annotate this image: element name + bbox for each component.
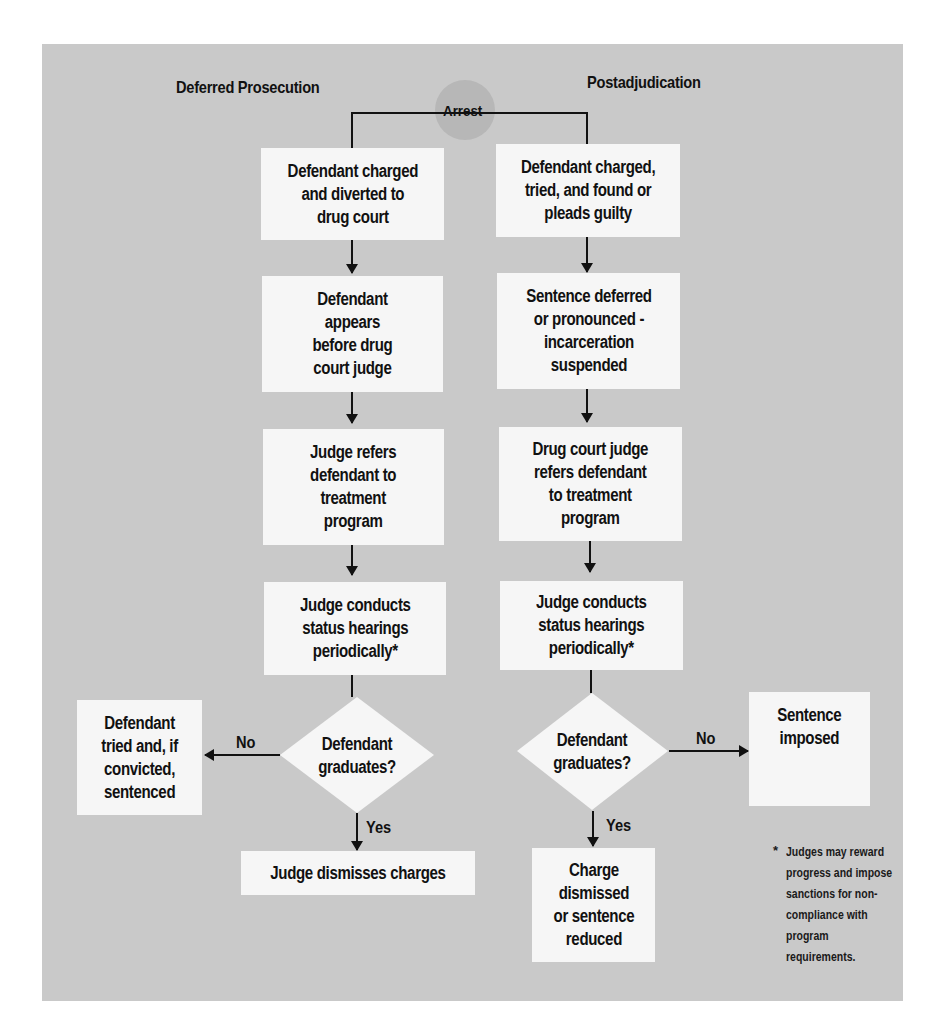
left-no-label: No [236, 733, 255, 753]
footnote-marker: * [773, 843, 778, 858]
left-step-4-box: Judge conducts status hearings periodica… [264, 582, 446, 675]
right-step-4-box: Judge conducts status hearings periodica… [500, 581, 683, 670]
right-yes-label: Yes [606, 816, 631, 836]
left-yes-label: Yes [366, 818, 391, 838]
right-yes-outcome-box: Charge dismissed or sentence reduced [532, 848, 655, 962]
left-step-2-text: Defendant appears before drug court judg… [313, 288, 393, 380]
right-yes-outcome-text: Charge dismissed or sentence reduced [553, 859, 634, 951]
right-no-outcome-box: Sentence imposed [749, 692, 870, 806]
right-step-2-box: Sentence deferred or pronounced - incarc… [497, 273, 680, 389]
right-step-4-text: Judge conducts status hearings periodica… [536, 591, 647, 660]
left-step-2-box: Defendant appears before drug court judg… [262, 276, 443, 392]
left-yes-outcome-text: Judge dismisses charges [270, 862, 445, 885]
left-step-4-text: Judge conducts status hearings periodica… [300, 594, 411, 663]
left-step-1-text: Defendant charged and diverted to drug c… [287, 160, 417, 229]
arrest-label: Arrest [443, 102, 482, 120]
left-decision-text: Defendant graduates? [305, 733, 408, 779]
left-step-3-text: Judge refers defendant to treatment prog… [310, 441, 396, 533]
right-no-outcome-text: Sentence imposed [777, 704, 841, 750]
left-no-outcome-text: Defendant tried and, if convicted, sente… [101, 712, 178, 804]
right-no-label: No [696, 729, 715, 749]
left-step-1-box: Defendant charged and diverted to drug c… [261, 148, 444, 240]
right-decision-text: Defendant graduates? [540, 729, 643, 775]
right-step-1-box: Defendant charged, tried, and found or p… [496, 144, 680, 237]
right-step-3-box: Drug court judge refers defendant to tre… [499, 427, 682, 541]
left-no-outcome-box: Defendant tried and, if convicted, sente… [77, 700, 202, 815]
left-yes-outcome-box: Judge dismisses charges [241, 851, 475, 895]
right-step-2-text: Sentence deferred or pronounced - incarc… [526, 285, 651, 377]
right-step-3-text: Drug court judge refers defendant to tre… [533, 438, 649, 530]
right-step-1-text: Defendant charged, tried, and found or p… [521, 156, 655, 225]
footnote-text: Judges may reward progress and impose sa… [786, 842, 895, 968]
column-title-deferred-prosecution: Deferred Prosecution [176, 78, 320, 98]
column-title-postadjudication: Postadjudication [587, 73, 701, 93]
left-step-3-box: Judge refers defendant to treatment prog… [263, 429, 444, 545]
